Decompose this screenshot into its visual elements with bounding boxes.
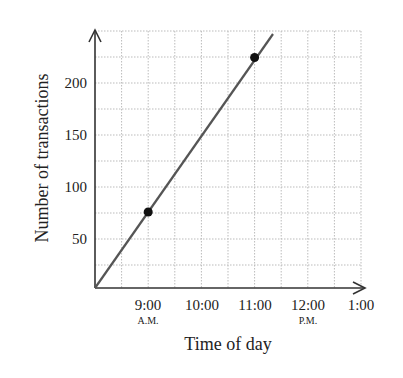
- y-tick-label: 100: [65, 179, 88, 195]
- x-tick-label: 10:00: [185, 297, 219, 313]
- y-tick-label: 150: [65, 127, 88, 143]
- y-tick-label: 200: [65, 75, 88, 91]
- y-axis-title: Number of transactions: [32, 74, 52, 243]
- data-point: [144, 208, 153, 217]
- axes: [89, 30, 365, 294]
- y-tick-label: 50: [72, 231, 87, 247]
- x-tick-label: 9:00: [135, 297, 162, 313]
- x-tick-label: 12:00: [291, 297, 325, 313]
- grid: [95, 31, 361, 288]
- data-point: [250, 53, 259, 62]
- chart: 50 100 150 200 9:00 10:00 11:00 12:00 1:…: [0, 0, 403, 378]
- x-axis-title: Time of day: [184, 334, 271, 354]
- pm-label: P.M.: [299, 315, 317, 326]
- am-label: A.M.: [137, 315, 158, 326]
- x-tick-label: 11:00: [238, 297, 272, 313]
- x-tick-label: 1:00: [348, 297, 375, 313]
